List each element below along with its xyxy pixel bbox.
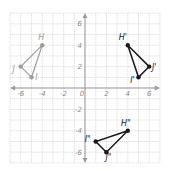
x-tick-label: -6 [17, 90, 25, 98]
vertex-label: I' [130, 76, 135, 85]
vertex-label: H [38, 33, 44, 42]
y-tick-label: -6 [75, 149, 83, 157]
x-tick-label: -2 [60, 90, 68, 98]
coordinate-plane: -6-4-20246642-2-4-6 HIJH'I'J'H"I"J" [0, 0, 172, 171]
vertex-label: I [35, 73, 38, 82]
vertex-label: H' [119, 33, 127, 42]
y-axis-arrow-up-icon [83, 13, 88, 18]
vertex-point [40, 43, 44, 47]
vertex-label: J [11, 65, 16, 74]
y-tick-label: -4 [75, 127, 82, 135]
x-tick-label: 2 [104, 90, 109, 98]
x-axis-arrow-left-icon [10, 86, 15, 91]
vertex-point [136, 75, 140, 79]
vertex-point [19, 64, 23, 68]
vertex-label: I" [85, 135, 91, 144]
x-tick-label: -4 [39, 90, 46, 98]
vertex-point [147, 64, 151, 68]
vertex-label: H" [121, 119, 131, 128]
x-tick-label: 6 [147, 90, 152, 98]
y-tick-label: 4 [78, 42, 82, 50]
y-tick-label: -2 [75, 106, 83, 114]
y-tick-label: 2 [78, 63, 83, 71]
y-axis-arrow-down-icon [83, 158, 88, 163]
vertex-point [126, 43, 130, 47]
vertex-point [29, 75, 33, 79]
vertex-label: J" [103, 153, 111, 162]
coordinate-grid-diagram: -6-4-20246642-2-4-6 HIJH'I'J'H"I"J" [0, 0, 172, 171]
vertex-point [126, 129, 130, 133]
x-axis-arrow-right-icon [155, 86, 160, 91]
triangle-image-2: H"I"J" [85, 119, 131, 162]
triangle-original: HIJ [11, 33, 45, 82]
y-tick-label: 6 [78, 20, 83, 28]
vertex-point [94, 139, 98, 143]
x-tick-label: 4 [126, 90, 130, 98]
x-tick-label: 0 [80, 90, 85, 98]
